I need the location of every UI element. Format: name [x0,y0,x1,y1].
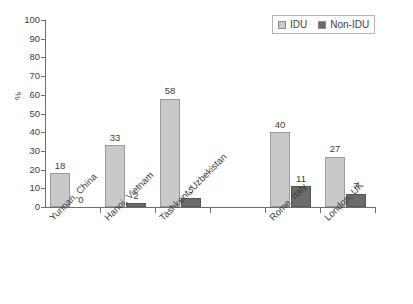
y-axis-tick-label: 10 [29,183,40,193]
y-axis-tick-label: 60 [29,90,40,100]
y-axis-ticks: 1009080706050403020100 [0,0,46,304]
bar-value-idu: 18 [46,161,74,171]
x-axis-tick-mark [210,208,211,213]
y-axis-tick-label: 20 [29,165,40,175]
y-axis-tick-label: 0 [35,202,40,212]
y-axis-tick-label: 40 [29,127,40,137]
bar-value-idu: 40 [266,120,294,130]
bar-value-idu: 27 [321,144,349,154]
bar-group [210,20,265,207]
x-axis-tick-mark [320,208,321,213]
y-axis-tick-label: 50 [29,109,40,119]
bar-value-idu: 33 [101,133,129,143]
bar-value-idu: 58 [156,86,184,96]
x-axis-tick-mark [375,208,376,213]
y-axis-tick-label: 80 [29,52,40,62]
y-axis-tick-label: 100 [24,15,40,25]
x-axis-tick-mark [100,208,101,213]
y-axis-tick-label: 30 [29,146,40,156]
bar-group: 4011 [265,20,320,207]
x-axis-tick-mark [155,208,156,213]
y-axis-tick-label: 90 [29,34,40,44]
y-axis-tick-label: 70 [29,71,40,81]
bar-non-idu [126,203,146,207]
bar-chart: IDU Non-IDU % 1009080706050403020100 180… [0,0,413,304]
bar-group: 277 [320,20,375,207]
x-axis-tick-mark [265,208,266,213]
